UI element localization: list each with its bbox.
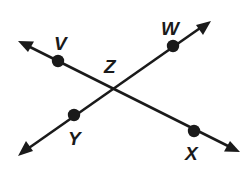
point-dot-x bbox=[188, 125, 200, 137]
point-label-z: Z bbox=[103, 56, 117, 77]
diagram-background bbox=[0, 0, 249, 176]
point-dot-v bbox=[52, 55, 64, 67]
geometry-diagram: V W Z Y X bbox=[0, 0, 249, 176]
point-label-v: V bbox=[54, 33, 68, 54]
point-dot-w bbox=[167, 40, 179, 52]
geometry-canvas: V W Z Y X bbox=[0, 0, 249, 176]
point-dot-y bbox=[68, 109, 80, 121]
point-label-w: W bbox=[161, 18, 181, 39]
point-label-x: X bbox=[184, 143, 199, 164]
